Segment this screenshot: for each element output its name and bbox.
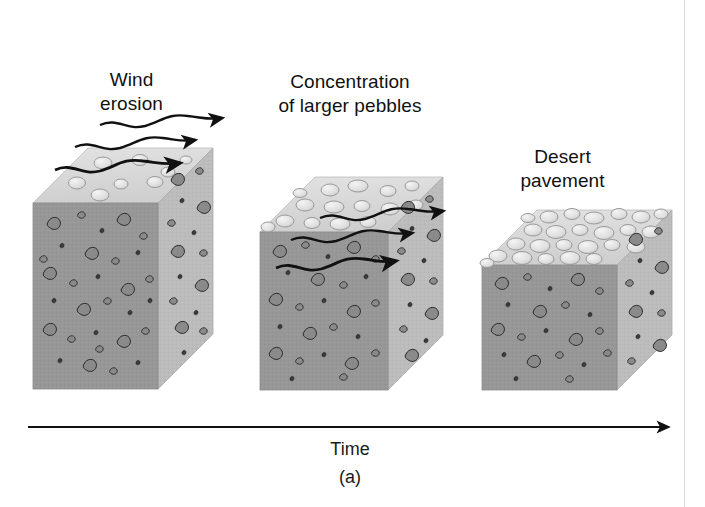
desert-pavement-figure: Wind erosion Concentration of larger peb… bbox=[0, 0, 705, 507]
panel-label-wind-erosion: Wind erosion bbox=[64, 68, 199, 116]
time-axis-label: Time bbox=[290, 438, 410, 460]
panel-label-concentration: Concentration of larger pebbles bbox=[252, 70, 448, 118]
figure-caption: (a) bbox=[290, 466, 410, 488]
panel-label-desert-pavement: Desert pavement bbox=[490, 145, 635, 193]
